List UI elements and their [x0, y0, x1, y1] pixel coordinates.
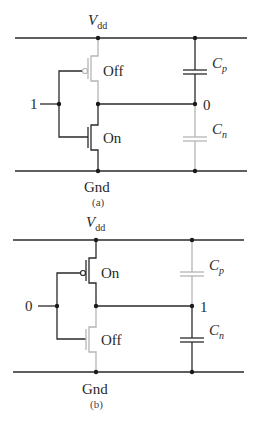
cmos-inverter-diagram: Vdd Off 1 On Cp: [0, 0, 257, 425]
panel-a: Vdd Off 1 On Cp: [15, 12, 247, 209]
vdd-label-b: Vdd: [86, 214, 105, 233]
junction-dot: [57, 102, 61, 106]
cn-capacitor-a: [183, 104, 207, 171]
junction-dot: [193, 36, 197, 40]
caption-a: (a): [92, 196, 105, 209]
junction-dot: [94, 370, 98, 374]
junction-dot: [55, 304, 59, 308]
junction-dot: [94, 304, 98, 308]
cn-label-b: Cn: [209, 322, 224, 341]
vdd-label-a: Vdd: [88, 12, 107, 31]
cn-capacitor-b: [180, 306, 204, 372]
pmos-state-b: On: [101, 265, 120, 281]
cp-capacitor-b: [180, 240, 204, 306]
pmos-transistor-b: [81, 240, 97, 306]
output-value-a: 0: [203, 97, 211, 113]
junction-dot: [96, 36, 100, 40]
gnd-label-a: Gnd: [84, 179, 110, 195]
junction-dot: [190, 304, 194, 308]
junction-dot: [193, 169, 197, 173]
gate-wire-b: [57, 273, 86, 339]
input-value-a: 1: [30, 96, 38, 112]
nmos-state-a: On: [103, 130, 122, 146]
panel-b: Vdd On 0 Off Cp: [13, 214, 244, 411]
cp-label-a: Cp: [212, 55, 227, 74]
cn-label-a: Cn: [212, 121, 227, 140]
output-value-b: 1: [200, 299, 208, 315]
nmos-transistor-b: [86, 306, 96, 372]
junction-dot: [190, 238, 194, 242]
cp-capacitor-a: [183, 38, 207, 104]
caption-b: (b): [90, 398, 103, 411]
junction-dot: [96, 169, 100, 173]
junction-dot: [190, 370, 194, 374]
input-value-b: 0: [25, 298, 33, 314]
nmos-transistor-a: [88, 104, 98, 171]
gnd-label-b: Gnd: [82, 381, 108, 397]
pmos-bubble-icon: [83, 69, 88, 74]
gate-wire-a: [59, 71, 88, 137]
pmos-bubble-icon: [81, 271, 86, 276]
nmos-state-b: Off: [101, 332, 122, 348]
junction-dot: [193, 102, 197, 106]
cp-label-b: Cp: [209, 257, 224, 276]
pmos-state-a: Off: [103, 63, 124, 79]
junction-dot: [96, 102, 100, 106]
pmos-transistor-a: [83, 38, 99, 104]
junction-dot: [94, 238, 98, 242]
